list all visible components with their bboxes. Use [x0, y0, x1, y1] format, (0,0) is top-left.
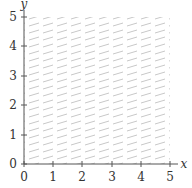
x-axis-label: x	[181, 157, 188, 171]
x-tick-label: 4	[137, 170, 145, 184]
y-tick-label: 3	[9, 69, 17, 83]
x-tick-label: 5	[166, 170, 174, 184]
x-tick-label: 0	[20, 170, 28, 184]
shaded-region	[24, 17, 170, 164]
y-tick-label: 5	[9, 10, 17, 24]
x-tick-label: 1	[49, 170, 57, 184]
y-axis-label: y	[20, 0, 28, 11]
y-tick-label: 2	[9, 98, 17, 112]
x-tick-label: 2	[78, 170, 86, 184]
y-tick-label: 1	[9, 128, 17, 142]
coordinate-plane: 0 1 2 3 4 5 0 1 2 3 4 5 x y	[0, 0, 192, 188]
x-tick-label: 3	[108, 170, 116, 184]
y-tick-label: 4	[9, 39, 17, 53]
y-tick-label: 0	[9, 157, 17, 171]
